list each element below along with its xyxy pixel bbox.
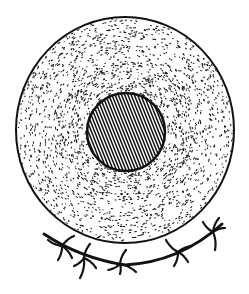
stipple-dot xyxy=(186,75,188,77)
stipple-dot xyxy=(173,193,174,194)
stipple-dot xyxy=(57,57,59,59)
stipple-dot xyxy=(190,103,191,105)
stipple-dot xyxy=(34,86,35,88)
stipple-dot xyxy=(117,65,119,66)
stipple-dot xyxy=(60,143,61,145)
stipple-dot xyxy=(75,223,77,225)
stipple-dot xyxy=(38,66,40,68)
stipple-dot xyxy=(34,148,35,150)
stipple-dot xyxy=(165,80,167,82)
stipple-dot xyxy=(144,211,146,213)
stipple-dot xyxy=(83,152,85,154)
stipple-dot xyxy=(104,219,106,220)
stipple-dot xyxy=(147,213,149,214)
stipple-dot xyxy=(188,68,190,70)
stipple-dot xyxy=(135,19,136,20)
stipple-dot xyxy=(137,235,139,236)
stipple-dot xyxy=(32,132,33,134)
stipple-dot xyxy=(150,175,151,176)
stipple-dot xyxy=(79,148,81,150)
stipple-dot xyxy=(115,46,117,47)
stipple-dot xyxy=(121,40,123,41)
stipple-dot xyxy=(108,192,110,193)
stipple-dot xyxy=(188,63,190,65)
stipple-dot xyxy=(210,109,211,111)
stipple-dot xyxy=(160,170,162,172)
stipple-dot xyxy=(112,64,114,65)
stipple-dot xyxy=(72,156,74,158)
stipple-dot xyxy=(49,63,51,65)
stipple-dot xyxy=(60,192,62,194)
stipple-dot xyxy=(170,202,172,204)
stipple-dot xyxy=(172,129,173,131)
stipple-dot xyxy=(68,172,70,174)
stipple-dot xyxy=(42,101,43,103)
stipple-dot xyxy=(212,70,214,72)
stipple-dot xyxy=(97,178,99,179)
stipple-dot xyxy=(102,23,104,24)
stipple-dot xyxy=(37,166,39,169)
stipple-dot xyxy=(156,30,158,31)
stipple-dot xyxy=(184,203,186,205)
stipple-dot xyxy=(175,169,177,171)
stipple-dot xyxy=(138,180,140,181)
stipple-dot xyxy=(23,157,24,159)
stipple-dot xyxy=(155,229,157,231)
stipple-dot xyxy=(185,120,186,123)
stipple-dot xyxy=(74,59,76,61)
stipple-dot xyxy=(176,165,178,167)
stipple-dot xyxy=(28,101,29,103)
stipple-dot xyxy=(205,95,206,97)
stipple-dot xyxy=(72,159,73,160)
stipple-dot xyxy=(177,150,179,152)
stipple-dot xyxy=(102,83,104,85)
stipple-dot xyxy=(25,147,26,148)
stipple-dot xyxy=(26,111,27,113)
stipple-dot xyxy=(79,36,81,38)
stipple-dot xyxy=(27,87,29,89)
granule xyxy=(110,187,117,194)
stipple-dot xyxy=(130,89,132,90)
stipple-dot xyxy=(45,189,47,191)
stipple-dot xyxy=(55,151,57,153)
stipple-dot xyxy=(214,181,215,182)
stipple-dot xyxy=(110,181,112,182)
stipple-dot xyxy=(149,94,151,96)
stipple-dot xyxy=(106,52,108,53)
stipple-dot xyxy=(126,74,128,75)
stipple-dot xyxy=(127,51,129,52)
stipple-dot xyxy=(174,123,175,125)
stipple-dot xyxy=(117,231,119,232)
stipple-dot xyxy=(172,166,174,168)
stipple-dot xyxy=(183,57,185,59)
stipple-dot xyxy=(20,148,21,150)
stipple-dot xyxy=(199,192,201,194)
stipple-dot xyxy=(176,79,178,81)
stipple-dot xyxy=(154,98,156,100)
stipple-dot xyxy=(81,124,82,125)
stipple-dot xyxy=(183,157,185,159)
stipple-dot xyxy=(133,193,134,194)
stipple-dot xyxy=(225,126,226,128)
stipple-dot xyxy=(45,141,46,143)
stipple-dot xyxy=(184,96,186,98)
stipple-dot xyxy=(186,137,187,139)
stipple-dot xyxy=(77,131,78,133)
stipple-dot xyxy=(200,167,202,169)
stipple-dot xyxy=(192,150,193,152)
stipple-dot xyxy=(146,60,149,62)
stipple-dot xyxy=(154,74,157,76)
stipple-dot xyxy=(84,72,86,74)
stipple-dot xyxy=(117,59,119,60)
stipple-dot xyxy=(59,124,60,126)
stipple-dot xyxy=(142,50,144,51)
stipple-dot xyxy=(137,62,139,63)
stipple-dot xyxy=(157,75,159,77)
stipple-dot xyxy=(74,140,75,142)
stipple-dot xyxy=(104,213,105,214)
stipple-dot xyxy=(106,87,108,89)
stipple-dot xyxy=(172,199,174,201)
stipple-dot xyxy=(215,182,216,184)
stipple-dot xyxy=(45,176,47,178)
stipple-dot xyxy=(178,70,180,72)
